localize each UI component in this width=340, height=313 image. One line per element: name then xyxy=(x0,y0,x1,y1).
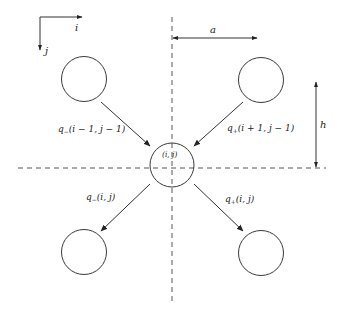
node-top-left xyxy=(62,57,107,102)
flux-label-bottom-left: q−(i, j) xyxy=(86,192,116,203)
flux-label-top-left: q−(i − 1, j − 1) xyxy=(58,124,126,135)
dimension-a: a xyxy=(173,24,257,38)
i-axis-label: i xyxy=(75,22,78,33)
flux-label-bottom-right: q+(i, j) xyxy=(225,194,255,205)
lattice-flux-diagram: i j a h (i, j) q−(i − 1, j − 1) q+(i + 1… xyxy=(0,0,340,313)
axis-indicator: i j xyxy=(40,17,82,56)
node-bottom-right xyxy=(239,231,284,276)
node-top-right xyxy=(239,58,284,103)
flux-arrow-top-right xyxy=(194,102,243,146)
j-axis-label: j xyxy=(43,45,48,56)
flux-label-top-right: q+(i + 1, j − 1) xyxy=(227,123,295,134)
node-bottom-left xyxy=(62,230,107,275)
dimension-h: h xyxy=(316,82,326,167)
a-dimension-label: a xyxy=(210,24,216,35)
h-dimension-label: h xyxy=(320,119,326,130)
flux-arrow-bottom-right xyxy=(194,184,243,231)
center-node-label: (i, j) xyxy=(162,150,177,159)
